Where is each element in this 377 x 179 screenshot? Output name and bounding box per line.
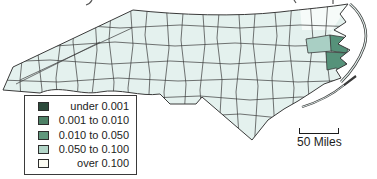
scale-bar-bracket (299, 128, 339, 134)
legend-row: 0.050 to 0.100 (25, 142, 136, 156)
county-highlight-medium-upper (330, 35, 349, 53)
scale-bar: 50 Miles (297, 128, 341, 149)
legend-swatch-darkest (38, 102, 49, 111)
legend-label: 0.001 to 0.010 (49, 115, 136, 126)
cropped-title-remnants (86, 0, 333, 5)
legend-row: 0.010 to 0.050 (25, 128, 136, 142)
legend-label: 0.010 to 0.050 (49, 130, 136, 141)
legend-label: 0.050 to 0.100 (49, 144, 136, 155)
map-legend: under 0.001 0.001 to 0.010 0.010 to 0.05… (24, 95, 137, 175)
legend-swatch-dark (38, 116, 49, 125)
legend-swatch-white (38, 159, 49, 168)
scale-bar-label: 50 Miles (297, 135, 341, 149)
legend-label: over 0.100 (49, 158, 136, 169)
legend-row: under 0.001 (25, 99, 136, 113)
legend-row: over 0.100 (25, 157, 136, 171)
map-figure: under 0.001 0.001 to 0.010 0.010 to 0.05… (0, 0, 377, 179)
legend-row: 0.001 to 0.010 (25, 113, 136, 127)
legend-swatch-medium (38, 131, 49, 140)
legend-swatch-light (38, 145, 49, 154)
legend-label: under 0.001 (49, 101, 136, 112)
